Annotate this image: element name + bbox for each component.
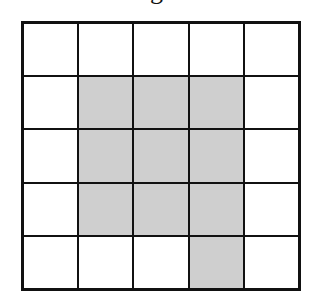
grid-cell-empty <box>23 76 78 129</box>
grid-cell-shaded <box>189 76 244 129</box>
grid-cell-shaded <box>78 183 133 236</box>
grid-cell-empty <box>23 236 78 289</box>
grid-cell-shaded <box>133 129 188 182</box>
grid-cell-empty <box>244 23 299 76</box>
grid-cell-empty <box>78 23 133 76</box>
grid-cell-empty <box>244 129 299 182</box>
grid-cell-shaded <box>78 129 133 182</box>
grid-cell-empty <box>244 76 299 129</box>
grid-cell-shaded <box>133 183 188 236</box>
cropped-caption-text: g <box>0 0 313 4</box>
grid-cell-empty <box>23 129 78 182</box>
shaded-square-grid <box>21 21 301 291</box>
grid-cell-shaded <box>133 76 188 129</box>
grid-cell-shaded <box>78 76 133 129</box>
grid-cell-empty <box>189 23 244 76</box>
grid-cell-empty <box>133 236 188 289</box>
grid-cell-shaded <box>189 236 244 289</box>
grid-cell-empty <box>78 236 133 289</box>
grid-cell-empty <box>133 23 188 76</box>
grid-cell-empty <box>23 183 78 236</box>
grid-cell-shaded <box>189 129 244 182</box>
grid-cell-empty <box>244 236 299 289</box>
grid-cell-empty <box>23 23 78 76</box>
grid-cell-empty <box>244 183 299 236</box>
grid-cell-shaded <box>189 183 244 236</box>
